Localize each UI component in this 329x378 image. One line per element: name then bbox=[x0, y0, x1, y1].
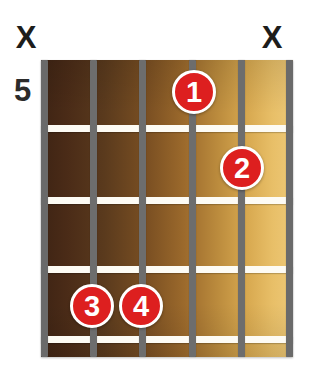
fret-line-2 bbox=[41, 197, 293, 204]
fret-line-3 bbox=[41, 266, 293, 273]
finger-dot-3: 3 bbox=[70, 284, 114, 328]
string-5 bbox=[238, 60, 245, 357]
guitar-chord-diagram: 5 X X 1 2 3 4 bbox=[0, 0, 329, 378]
string-6 bbox=[286, 60, 293, 357]
mute-x-icon-string-6: X bbox=[254, 20, 290, 56]
fret-line-4 bbox=[41, 336, 293, 343]
fret-position-label: 5 bbox=[8, 74, 36, 108]
mute-x-icon-string-1: X bbox=[8, 20, 44, 56]
finger-dot-4: 4 bbox=[119, 284, 163, 328]
finger-dot-2: 2 bbox=[220, 146, 264, 190]
string-1 bbox=[41, 60, 48, 357]
fret-line-1 bbox=[41, 125, 293, 132]
finger-dot-1: 1 bbox=[172, 70, 216, 114]
